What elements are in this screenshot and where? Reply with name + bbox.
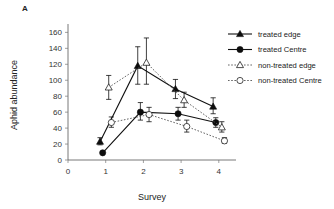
y-axis-tick-labels: 020406080100120140160: [49, 28, 63, 165]
series-line: [109, 63, 222, 128]
data-point-marker: [97, 138, 104, 144]
chart-canvas: 020406080100120140160 01234 treated edge…: [0, 0, 334, 209]
y-tick-label: 140: [49, 44, 63, 53]
x-axis-title: Survey: [138, 192, 167, 202]
x-tick-label: 1: [103, 167, 108, 176]
data-point-marker: [137, 109, 143, 115]
x-tick-label: 0: [66, 167, 71, 176]
legend-item-treated-centre: treated Centre: [228, 45, 307, 54]
y-axis-title: Aphid abundance: [9, 60, 19, 130]
legend-item-non-treated-edge: non-treated edge: [228, 61, 316, 70]
data-point-marker: [210, 103, 217, 109]
legend-item-label: treated edge: [258, 30, 301, 39]
legend-item-label: treated Centre: [258, 45, 307, 54]
legend-item-non-treated-centre: non-treated Centre: [228, 76, 322, 85]
y-tick-label: 20: [53, 140, 62, 149]
y-tick-label: 60: [53, 108, 62, 117]
chart-legend: treated edgetreated Centrenon-treated ed…: [228, 30, 322, 86]
data-point-marker: [184, 123, 190, 129]
x-axis-tick-labels: 01234: [66, 167, 222, 176]
data-point-marker: [146, 111, 152, 117]
data-point-marker: [108, 119, 114, 125]
series-non-treated-edge: [105, 38, 225, 132]
legend-marker-open-circle-icon: [237, 77, 243, 83]
data-point-marker: [172, 85, 179, 91]
data-point-marker: [218, 124, 225, 130]
x-tick-label: 3: [179, 167, 184, 176]
y-tick-label: 100: [49, 76, 63, 85]
x-tick-label: 4: [217, 167, 222, 176]
data-point-marker: [143, 59, 150, 65]
data-point-marker: [175, 111, 181, 117]
data-point-marker: [221, 138, 227, 144]
y-tick-label: 160: [49, 28, 63, 37]
data-point-marker: [181, 97, 188, 103]
data-point-marker: [134, 62, 141, 68]
axis-lines: [65, 24, 236, 163]
y-tick-label: 120: [49, 60, 63, 69]
legend-item-treated-edge: treated edge: [228, 30, 301, 39]
series-treated-centre: [100, 103, 219, 156]
y-tick-label: 40: [53, 124, 62, 133]
y-tick-label: 80: [53, 92, 62, 101]
data-point-marker: [100, 150, 106, 156]
figure-panel-a: A 020406080100120140160 01234 treated ed…: [0, 0, 334, 209]
series-line: [103, 112, 216, 153]
data-point-marker: [105, 84, 112, 90]
x-tick-label: 2: [141, 167, 146, 176]
legend-marker-open-triangle-icon: [237, 61, 244, 67]
y-tick-label: 0: [58, 156, 63, 165]
series-line: [111, 115, 224, 141]
series-treated-edge: [97, 47, 217, 145]
legend-marker-filled-circle-icon: [237, 46, 243, 52]
data-series-group: [97, 38, 228, 156]
legend-item-label: non-treated Centre: [258, 76, 322, 85]
legend-item-label: non-treated edge: [258, 61, 316, 70]
data-point-marker: [213, 119, 219, 125]
series-line: [100, 66, 213, 142]
